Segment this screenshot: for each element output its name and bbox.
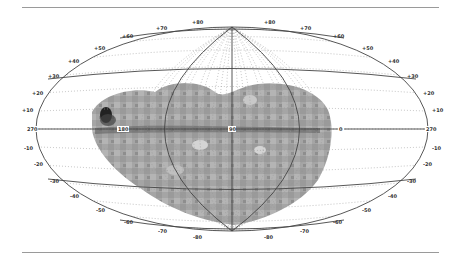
- svg-text:-70: -70: [158, 228, 168, 234]
- svg-text:+40: +40: [68, 58, 80, 64]
- svg-text:90: 90: [229, 126, 236, 132]
- svg-text:-20: -20: [423, 161, 433, 167]
- svg-text:+60: +60: [333, 33, 345, 39]
- svg-text:-10: -10: [24, 145, 34, 151]
- svg-text:+10: +10: [432, 107, 444, 113]
- svg-text:+50: +50: [362, 45, 374, 51]
- svg-text:+20: +20: [423, 90, 435, 96]
- svg-text:270: 270: [426, 126, 437, 132]
- svg-text:-40: -40: [70, 193, 80, 199]
- svg-text:180: 180: [118, 126, 129, 132]
- svg-text:+50: +50: [94, 45, 106, 51]
- svg-text:+30: +30: [48, 73, 60, 79]
- svg-text:+80: +80: [192, 19, 204, 25]
- sky-map: 270 180 90 0 270 +10 +20 +30 +40 +50 +60…: [0, 0, 461, 259]
- svg-text:-70: -70: [300, 228, 310, 234]
- svg-text:0: 0: [339, 126, 343, 132]
- svg-text:-60: -60: [333, 219, 343, 225]
- svg-text:-20: -20: [34, 161, 44, 167]
- svg-text:-40: -40: [388, 193, 398, 199]
- svg-text:-80: -80: [264, 234, 274, 240]
- svg-text:+30: +30: [407, 73, 419, 79]
- svg-text:+70: +70: [156, 25, 168, 31]
- svg-text:+70: +70: [300, 25, 312, 31]
- svg-text:+60: +60: [122, 33, 134, 39]
- svg-text:-10: -10: [432, 145, 442, 151]
- svg-text:+20: +20: [32, 90, 44, 96]
- svg-text:-50: -50: [362, 207, 372, 213]
- svg-text:+80: +80: [264, 19, 276, 25]
- svg-text:+40: +40: [388, 58, 400, 64]
- svg-text:-60: -60: [124, 219, 134, 225]
- svg-text:-50: -50: [96, 207, 106, 213]
- svg-text:-80: -80: [193, 234, 203, 240]
- svg-text:270: 270: [27, 126, 38, 132]
- svg-text:-30: -30: [407, 178, 417, 184]
- svg-text:-30: -30: [50, 178, 60, 184]
- svg-text:+10: +10: [22, 107, 34, 113]
